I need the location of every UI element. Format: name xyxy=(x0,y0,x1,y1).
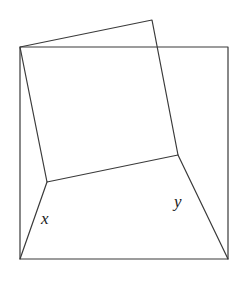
angle-label-x: x xyxy=(41,210,49,227)
angle-label-y: y xyxy=(174,193,182,210)
figure-canvas: x y xyxy=(0,0,243,283)
angle-leg-right xyxy=(178,155,228,259)
outer-square xyxy=(20,47,228,259)
tilted-quadrilateral xyxy=(20,20,178,182)
geometry-diagram xyxy=(0,0,243,283)
